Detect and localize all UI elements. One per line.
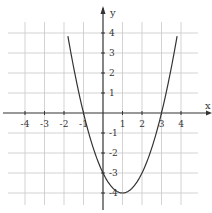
x-tick-label: -4 bbox=[21, 119, 30, 129]
y-tick-label: 2 bbox=[109, 68, 115, 78]
y-axis-label: y bbox=[109, 7, 116, 18]
y-tick-label: -3 bbox=[109, 168, 118, 178]
function-plot: -4-3-2-11234 -4-3-2-11234 x y bbox=[0, 0, 212, 213]
y-axis-arrow-icon bbox=[101, 6, 106, 14]
x-tick-label: 4 bbox=[178, 119, 184, 129]
x-tick-label: 1 bbox=[120, 119, 126, 129]
x-axis-label: x bbox=[205, 100, 211, 111]
x-axis-arrow-icon bbox=[206, 111, 212, 116]
y-tick-label: 4 bbox=[109, 28, 115, 38]
y-tick-label: 1 bbox=[109, 88, 115, 98]
y-tick-label: -1 bbox=[109, 128, 118, 138]
x-tick-label: 2 bbox=[139, 119, 145, 129]
x-tick-label: -2 bbox=[60, 119, 69, 129]
y-tick-label: 3 bbox=[109, 48, 115, 58]
x-tick-label: -3 bbox=[40, 119, 49, 129]
y-tick-label: -2 bbox=[109, 148, 118, 158]
